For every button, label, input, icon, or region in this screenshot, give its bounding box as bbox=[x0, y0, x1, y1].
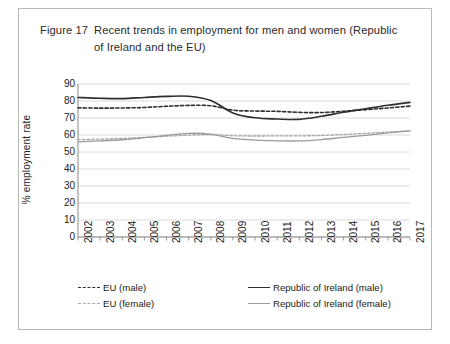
legend-label: EU (male) bbox=[103, 282, 146, 293]
x-tick-label: 2007 bbox=[193, 221, 204, 243]
x-tick-label: 2017 bbox=[415, 221, 426, 243]
legend-label: EU (female) bbox=[103, 298, 154, 309]
chart-legend: EU (male) Republic of Ireland (male) EU … bbox=[78, 279, 408, 311]
legend-label: Republic of Ireland (male) bbox=[273, 282, 383, 293]
legend-label: Republic of Ireland (female) bbox=[273, 298, 391, 309]
legend-row: EU (male) Republic of Ireland (male) bbox=[78, 279, 408, 295]
x-tick-label: 2009 bbox=[237, 221, 248, 243]
legend-row: EU (female) Republic of Ireland (female) bbox=[78, 295, 408, 311]
legend-item-roi-female: Republic of Ireland (female) bbox=[248, 298, 391, 309]
x-tick-label: 2011 bbox=[282, 221, 293, 243]
line-swatch-icon bbox=[78, 287, 100, 288]
legend-item-eu-female: EU (female) bbox=[78, 298, 248, 309]
x-tick-label: 2015 bbox=[370, 221, 381, 243]
x-tick-label: 2012 bbox=[304, 221, 315, 243]
x-tick-label: 2010 bbox=[260, 221, 271, 243]
line-swatch-icon bbox=[248, 303, 270, 304]
x-tick-label: 2002 bbox=[83, 221, 94, 243]
x-tick-label: 2008 bbox=[215, 221, 226, 243]
legend-item-roi-male: Republic of Ireland (male) bbox=[248, 282, 383, 293]
x-tick-label: 2013 bbox=[326, 221, 337, 243]
x-tick-label: 2006 bbox=[171, 221, 182, 243]
x-tick-label: 2005 bbox=[149, 221, 160, 243]
legend-item-eu-male: EU (male) bbox=[78, 282, 248, 293]
line-swatch-icon bbox=[78, 303, 100, 304]
x-tick-label: 2014 bbox=[348, 221, 359, 243]
x-tick-label: 2016 bbox=[392, 221, 403, 243]
x-tick-label: 2003 bbox=[105, 221, 116, 243]
line-swatch-icon bbox=[248, 287, 270, 288]
x-tick-label: 2004 bbox=[127, 221, 138, 243]
